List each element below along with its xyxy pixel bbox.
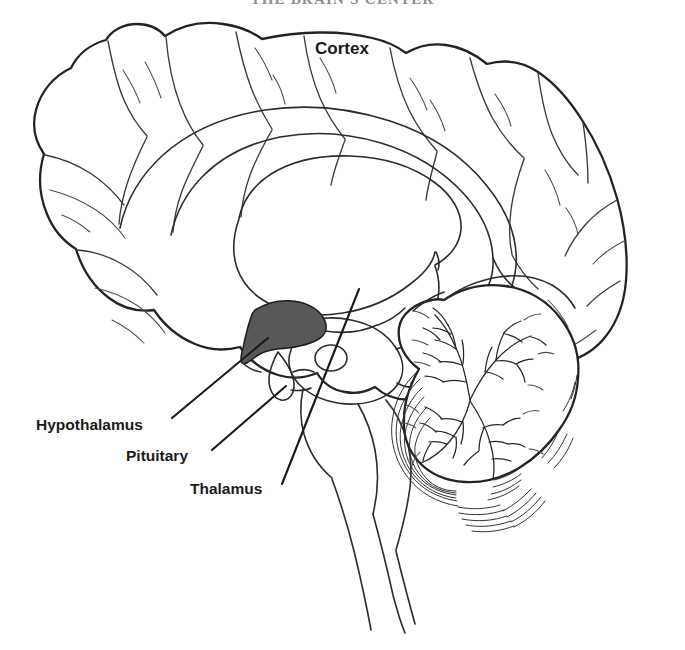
brain-diagram [0,0,685,650]
figure-canvas: THE BRAIN'S CENTER [0,0,685,650]
label-cortex: Cortex [315,40,369,57]
label-hypothalamus: Hypothalamus [36,417,143,433]
label-pituitary: Pituitary [126,448,188,464]
cerebellum [392,285,579,532]
leader-pituitary [212,386,286,450]
label-thalamus: Thalamus [190,481,262,497]
